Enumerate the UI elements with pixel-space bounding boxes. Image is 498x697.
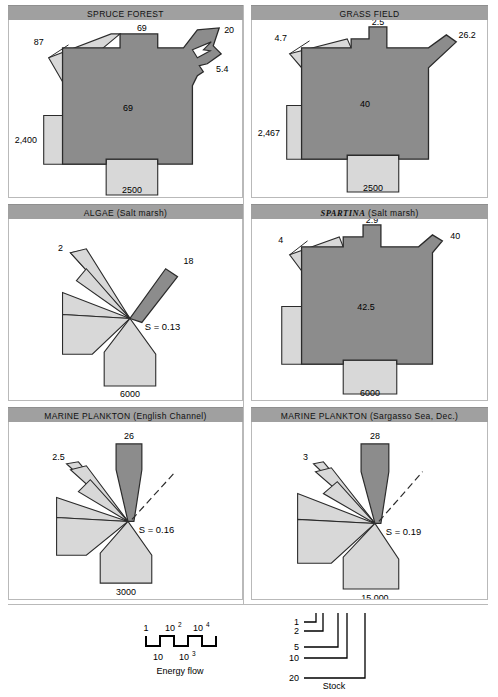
label-flow-upper-right: 26.2: [458, 30, 475, 40]
plankton-channel-diagram: 2.5 26 3000 S = 0.16: [9, 422, 242, 599]
label-flow-bottom: 6000: [360, 388, 380, 398]
panel-title-suffix: (Salt marsh): [368, 208, 419, 218]
label-flow-upper-left: 2: [58, 243, 63, 253]
panel-title-text: ALGAE: [84, 208, 114, 218]
legend-tick-10000-exp: 4: [206, 621, 210, 628]
label-flow-upper-right: 20: [224, 25, 234, 35]
panel-marine-plankton-english-channel: MARINE PLANKTON (English Channel) 2.5: [8, 407, 243, 600]
legend-stock-svg: 1 2 5 10 20 Stock: [268, 610, 428, 692]
legend-tick-100-exp: 2: [178, 621, 182, 628]
stock-bracket-1: [304, 613, 316, 622]
panel-body: 2.5 26 3000 S = 0.16: [8, 422, 243, 600]
label-flow-upper-left: 87: [34, 37, 44, 47]
panel-header: SPARTINA (Salt marsh): [251, 204, 488, 220]
label-flow-upper-right: 40: [450, 231, 460, 241]
stock-label-20: 20: [289, 673, 299, 683]
algae-diagram: 2 18 6000 S = 0.13: [9, 219, 242, 400]
label-flow-upper-left: 2.5: [52, 452, 64, 462]
panel-title-text: MARINE PLANKTON: [281, 411, 367, 421]
stock-body: [63, 28, 222, 164]
label-stock: S = 0.16: [139, 524, 174, 535]
legend-tick-1000: 10: [179, 652, 189, 662]
label-flow-top: 2.5: [372, 20, 384, 27]
label-flow-left: 2,400: [15, 135, 37, 145]
stock-bracket-5: [304, 613, 338, 647]
panel-title-suffix: (Salt marsh): [117, 208, 168, 218]
label-flow-left: 2,467: [258, 128, 280, 138]
panel-title-suffix: (Sargasso Sea, Dec.): [370, 411, 458, 421]
panel-body: 3 28 15.000 S = 0.19: [251, 422, 488, 600]
flow-arms: [63, 249, 178, 386]
stock-label-10: 10: [289, 653, 299, 663]
legend-tick-1: 1: [143, 623, 148, 633]
label-flow-bottom: 6000: [120, 389, 140, 399]
legend-stock-caption: Stock: [323, 681, 346, 691]
legend-tick-10000: 10: [193, 623, 203, 633]
plankton-sargasso-diagram: 3 28 15.000 S = 0.19: [252, 422, 487, 599]
label-flow-top: 2.9: [366, 219, 378, 225]
panel-title: ALGAE (Salt marsh): [84, 208, 167, 218]
label-stock: 42.5: [357, 302, 374, 312]
label-flow-top: 28: [370, 431, 380, 441]
panel-algae-salt-marsh: ALGAE (Salt marsh) 2 18 6000: [8, 204, 243, 401]
panel-header: MARINE PLANKTON (English Channel): [8, 407, 243, 423]
flow-arm-top-right-dark: [130, 269, 178, 323]
label-flow-top: 69: [137, 23, 147, 33]
panel-title-text: SPRUCE FOREST: [87, 9, 164, 19]
label-stock: 40: [360, 99, 370, 109]
grass-field-diagram: 2.5 26.2 4.7 2,467 2500 40: [252, 20, 487, 197]
stock-bracket-10: [304, 613, 347, 658]
square-wave-scale: [146, 636, 216, 646]
legend-divider: [8, 604, 488, 605]
panel-header: SPRUCE FOREST: [8, 5, 243, 21]
spartina-diagram: 2.9 40 4 6000 42.5: [252, 219, 487, 400]
panel-spartina-salt-marsh: SPARTINA (Salt marsh) 2.9: [251, 204, 488, 401]
legend-tick-100: 10: [165, 623, 175, 633]
panel-marine-plankton-sargasso-sea: MARINE PLANKTON (Sargasso Sea, Dec.) 3 2…: [251, 407, 488, 600]
panel-header: ALGAE (Salt marsh): [8, 204, 243, 220]
label-stock: 69: [123, 103, 133, 113]
label-flow-bottom: 15.000: [361, 593, 388, 599]
panel-spruce-forest: SPRUCE FOREST: [8, 5, 243, 198]
legend-tick-10: 10: [153, 652, 163, 662]
stock-label-5: 5: [294, 642, 299, 652]
label-flow-bottom: 3000: [116, 587, 136, 597]
label-flow-bottom: 2500: [122, 185, 142, 195]
label-flow-upper-left: 4: [278, 235, 283, 245]
panel-body: 2 18 6000 S = 0.13: [8, 219, 243, 401]
panel-title-text: MARINE PLANKTON: [44, 411, 130, 421]
spruce-forest-diagram: 69 20 5.4 87 2,400 2500 69: [9, 20, 242, 197]
panel-title: GRASS FIELD: [339, 9, 399, 19]
column-divider: [243, 5, 244, 604]
label-flow-top: 26: [124, 431, 134, 441]
label-flow-top-right: 18: [183, 256, 193, 266]
panel-title: MARINE PLANKTON (English Channel): [44, 411, 207, 421]
panel-grass-field: GRASS FIELD 2.5 26: [251, 5, 488, 198]
stock-bracket-20: [304, 613, 365, 678]
panel-title: SPRUCE FOREST: [87, 9, 164, 19]
stock-brackets: [304, 613, 365, 678]
panel-header: GRASS FIELD: [251, 5, 488, 21]
label-flow-upper-left: 4.7: [275, 33, 287, 43]
panel-title: SPARTINA (Salt marsh): [320, 208, 418, 218]
panel-body: 2.9 40 4 6000 42.5: [251, 219, 488, 401]
legend-energy-flow: 1 10 2 10 4 10 10 3 Energy flow: [120, 614, 260, 689]
legend-tick-1000-exp: 3: [192, 650, 196, 657]
legend-stock: 1 2 5 10 20 Stock: [268, 610, 428, 692]
legend-energy-flow-svg: 1 10 2 10 4 10 10 3 Energy flow: [120, 614, 260, 689]
panel-title-scientific: SPARTINA: [320, 208, 365, 218]
legend-energy-caption: Energy flow: [156, 666, 204, 676]
label-stock: S = 0.19: [386, 526, 421, 537]
panel-title: MARINE PLANKTON (Sargasso Sea, Dec.): [281, 411, 458, 421]
panel-title-text: GRASS FIELD: [339, 9, 399, 19]
panel-title-suffix: (English Channel): [133, 411, 207, 421]
label-flow-right: 5.4: [216, 64, 228, 74]
label-stock: S = 0.13: [145, 321, 180, 332]
flow-arms: [57, 444, 152, 583]
panel-body: 2.5 26.2 4.7 2,467 2500 40: [251, 20, 488, 198]
panel-header: MARINE PLANKTON (Sargasso Sea, Dec.): [251, 407, 488, 423]
label-flow-bottom: 2500: [363, 183, 383, 193]
label-flow-upper-left: 3: [303, 452, 308, 462]
ecosystem-energy-flow-figure: SPRUCE FOREST: [0, 0, 498, 697]
panel-body: 69 20 5.4 87 2,400 2500 69: [8, 20, 243, 198]
